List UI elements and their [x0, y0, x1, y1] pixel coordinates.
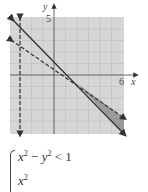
system-brace — [10, 150, 15, 192]
y-tick-label: 5 — [46, 13, 51, 24]
less-than: < — [55, 149, 62, 164]
x-axis-label: x — [130, 76, 136, 87]
exponent: 2 — [47, 149, 51, 158]
exponent: 2 — [24, 149, 28, 158]
rhs-value: 1 — [65, 149, 72, 164]
x-tick-label: 6 — [119, 76, 124, 87]
minus-sign: − — [31, 149, 38, 164]
y-axis-label: y — [42, 1, 48, 12]
inequality-2: x2 — [18, 173, 28, 189]
inequality-graph: y 5 6 x — [0, 0, 148, 140]
inequality-1: x2 − y2 < 1 — [18, 149, 72, 165]
exponent: 2 — [24, 173, 28, 182]
